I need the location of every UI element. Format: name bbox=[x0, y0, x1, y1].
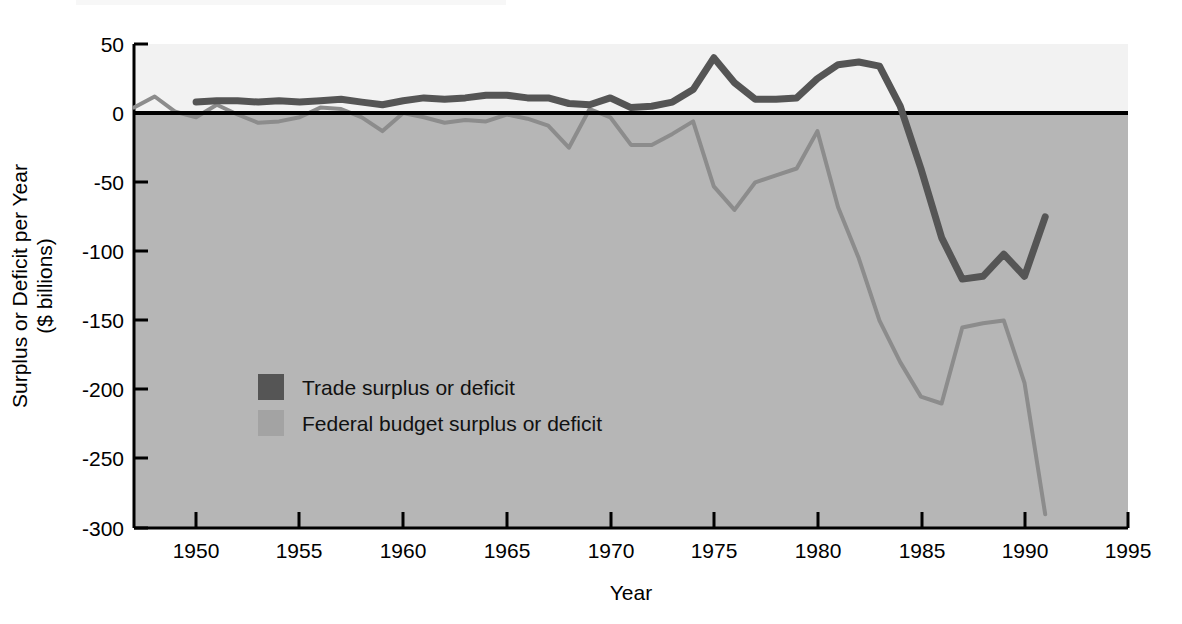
y-tick-label-minus-250: -250 bbox=[82, 447, 124, 470]
chart-figure: 50 0 -50 -100 -150 -200 -250 -300 1950 1… bbox=[0, 0, 1182, 624]
y-axis-title-line2: ($ billions) bbox=[33, 238, 56, 334]
y-tick-label-50: 50 bbox=[101, 33, 124, 56]
y-tick-label-minus-200: -200 bbox=[82, 378, 124, 401]
x-tick-label-1955: 1955 bbox=[276, 539, 323, 562]
legend-label-trade: Trade surplus or deficit bbox=[302, 376, 515, 399]
y-tick-label-minus-100: -100 bbox=[82, 240, 124, 263]
plot-background-below-zero bbox=[134, 113, 1128, 528]
y-axis-title-line1: Surplus or Deficit per Year bbox=[8, 164, 31, 408]
legend-swatch-trade bbox=[258, 374, 284, 400]
x-tick-label-1995: 1995 bbox=[1105, 539, 1152, 562]
surplus-deficit-line-chart: 50 0 -50 -100 -150 -200 -250 -300 1950 1… bbox=[0, 0, 1182, 624]
y-tick-label-minus-50: -50 bbox=[94, 171, 124, 194]
x-axis-title: Year bbox=[610, 581, 652, 604]
x-tick-label-1965: 1965 bbox=[484, 539, 531, 562]
legend-label-federal-budget: Federal budget surplus or deficit bbox=[302, 412, 602, 435]
y-tick-label-minus-300: -300 bbox=[82, 517, 124, 540]
y-tick-label-0: 0 bbox=[112, 102, 124, 125]
x-tick-label-1970: 1970 bbox=[588, 539, 635, 562]
x-tick-label-1950: 1950 bbox=[173, 539, 220, 562]
x-tick-label-1975: 1975 bbox=[691, 539, 738, 562]
x-tick-label-1960: 1960 bbox=[380, 539, 427, 562]
legend-swatch-federal-budget bbox=[258, 410, 284, 436]
y-tick-label-minus-150: -150 bbox=[82, 309, 124, 332]
x-tick-label-1985: 1985 bbox=[899, 539, 946, 562]
x-tick-label-1980: 1980 bbox=[795, 539, 842, 562]
x-tick-label-1990: 1990 bbox=[1002, 539, 1049, 562]
